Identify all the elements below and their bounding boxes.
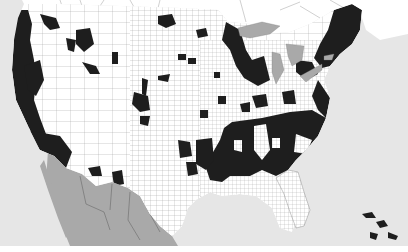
us-county-map [0, 0, 408, 252]
map-container [0, 0, 408, 252]
bottom-margin [0, 246, 408, 252]
